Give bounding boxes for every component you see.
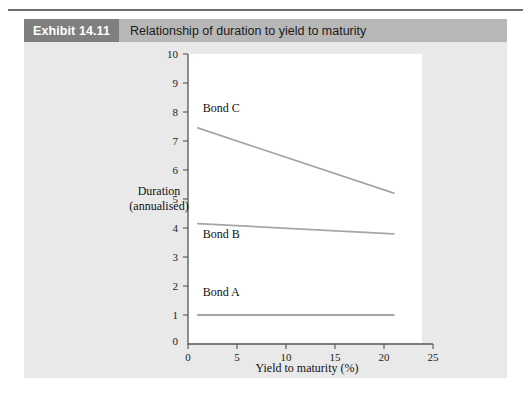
y-tick-label: 3 [173,251,179,263]
y-tick-label: 7 [173,135,179,147]
exhibit-title: Relationship of duration to yield to mat… [119,19,507,42]
x-tick-label: 25 [428,351,440,363]
exhibit-header: Exhibit 14.11 Relationship of duration t… [24,19,507,42]
exhibit-number-badge: Exhibit 14.11 [24,19,119,42]
y-tick-label: 2 [173,280,179,292]
series-label-bond-c: Bond C [203,101,240,115]
chart-panel: 0510152025 012345678910 Bond CBond BBond… [24,42,507,378]
x-tick-label: 20 [379,351,391,363]
y-tick-marks [183,54,188,315]
chart-svg: 0510152025 012345678910 Bond CBond BBond… [24,42,507,378]
x-axis-title: Yield to maturity (%) [256,361,359,375]
y-axis-title-line2: (annualised) [129,199,188,213]
x-tick-label: 5 [234,351,240,363]
top-divider [8,9,523,11]
x-tick-marks [188,344,433,349]
x-tick-label: 0 [185,351,191,363]
y-tick-label: 6 [173,164,179,176]
y-tick-label: 10 [167,48,179,60]
y-tick-label: 1 [173,309,179,321]
y-tick-label: 8 [173,106,179,118]
y-tick-label: 0 [173,335,179,347]
axis-lines [188,54,433,344]
series-label-bond-a: Bond A [203,285,240,299]
series-line-bond-c [198,128,394,193]
exhibit-figure: Exhibit 14.11 Relationship of duration t… [0,0,531,394]
y-tick-label: 4 [173,222,179,234]
series-label-bond-b: Bond B [203,227,240,241]
y-axis-title-line1: Duration [138,184,181,198]
axes-group [183,54,433,349]
y-tick-label: 9 [173,77,179,89]
